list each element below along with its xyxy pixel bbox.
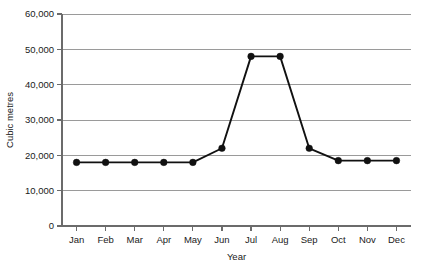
- x-tick-label: Mar: [127, 234, 143, 245]
- x-tick-label: Nov: [359, 234, 376, 245]
- data-point: [160, 159, 167, 166]
- x-tick-label: Sep: [301, 234, 318, 245]
- y-tick-group: [57, 14, 62, 226]
- line-chart-figure: 010,00020,00030,00040,00050,00060,000 Ja…: [0, 0, 428, 269]
- x-tick-label: Dec: [388, 234, 405, 245]
- chart-canvas: 010,00020,00030,00040,00050,00060,000 Ja…: [0, 0, 428, 269]
- data-point: [131, 159, 138, 166]
- series-line-cubic-metres: [77, 56, 397, 162]
- x-axis-title: Year: [227, 251, 246, 262]
- y-tick-label-group: 010,00020,00030,00040,00050,00060,000: [25, 8, 54, 231]
- data-point: [248, 53, 255, 60]
- y-tick-label: 30,000: [25, 114, 54, 125]
- data-point: [393, 157, 400, 164]
- y-tick-label: 20,000: [25, 150, 54, 161]
- y-tick-label: 60,000: [25, 8, 54, 19]
- data-point: [277, 53, 284, 60]
- x-tick-label: Apr: [156, 234, 171, 245]
- y-tick-label: 0: [49, 220, 54, 231]
- data-point: [190, 159, 197, 166]
- data-point: [306, 145, 313, 152]
- x-tick-label: Jan: [69, 234, 84, 245]
- data-point-group: [73, 53, 400, 166]
- data-point: [73, 159, 80, 166]
- y-tick-label: 50,000: [25, 44, 54, 55]
- y-tick-label: 10,000: [25, 185, 54, 196]
- x-tick-group: [77, 226, 397, 231]
- x-tick-label: Aug: [272, 234, 289, 245]
- x-tick-label: Jul: [245, 234, 257, 245]
- y-tick-label: 40,000: [25, 79, 54, 90]
- y-axis-title: Cubic metres: [4, 92, 15, 148]
- data-point: [102, 159, 109, 166]
- x-tick-label: Jun: [214, 234, 229, 245]
- data-point: [364, 157, 371, 164]
- data-point: [219, 145, 226, 152]
- x-tick-label: May: [184, 234, 202, 245]
- x-tick-label: Feb: [97, 234, 113, 245]
- data-point: [335, 157, 342, 164]
- x-tick-label: Oct: [331, 234, 346, 245]
- x-tick-label-group: JanFebMarAprMayJunJulAugSepOctNovDec: [69, 234, 405, 245]
